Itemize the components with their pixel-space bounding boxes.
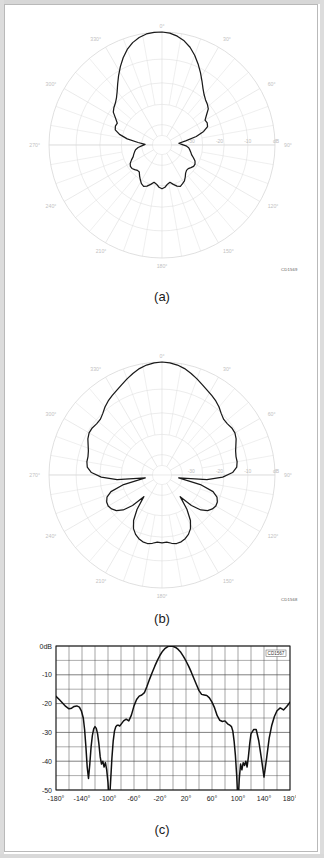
caption-b: (b): [0, 611, 324, 626]
svg-text:60°: 60°: [268, 81, 276, 87]
caption-a: (a): [0, 289, 324, 304]
svg-text:-20: -20: [216, 468, 223, 474]
svg-text:-100°: -100°: [100, 795, 117, 802]
svg-text:90°: 90°: [284, 472, 292, 478]
svg-text:330°: 330°: [90, 36, 101, 42]
svg-text:210°: 210°: [96, 248, 107, 254]
line-panel-c: 0dB-10-20-30-40-50-180°-140°-100°-60°-20…: [28, 636, 296, 822]
line-chart-c: 0dB-10-20-30-40-50-180°-140°-100°-60°-20…: [28, 636, 296, 822]
svg-text:30°: 30°: [223, 366, 231, 372]
figure-page: 0°30°60°90°120°150°180°210°240°270°300°3…: [0, 0, 324, 858]
svg-text:dB: dB: [273, 468, 280, 474]
svg-text:0dB: 0dB: [40, 643, 53, 650]
polar-chart-a: 0°30°60°90°120°150°180°210°240°270°300°3…: [24, 14, 300, 276]
svg-text:150°: 150°: [223, 248, 234, 254]
svg-text:100°: 100°: [231, 795, 246, 802]
svg-text:180°: 180°: [283, 795, 296, 802]
svg-text:-50: -50: [42, 787, 52, 794]
polar-panel-a: 0°30°60°90°120°150°180°210°240°270°300°3…: [24, 14, 300, 276]
svg-text:20°: 20°: [181, 795, 192, 802]
svg-text:150°: 150°: [223, 578, 234, 584]
svg-text:-10: -10: [244, 468, 251, 474]
svg-text:120°: 120°: [268, 203, 279, 209]
svg-text:-140°: -140°: [74, 795, 91, 802]
svg-text:-10: -10: [42, 671, 52, 678]
cd-tag-a: CD1569: [281, 267, 298, 272]
svg-text:90°: 90°: [284, 142, 292, 148]
svg-text:-30: -30: [42, 729, 52, 736]
svg-text:300°: 300°: [46, 411, 57, 417]
svg-text:-20°: -20°: [154, 795, 167, 802]
svg-text:330°: 330°: [90, 366, 101, 372]
svg-text:dB: dB: [273, 138, 280, 144]
cd-tag-b: CD1568: [281, 597, 298, 602]
svg-text:270°: 270°: [29, 472, 40, 478]
svg-text:CD1567: CD1567: [268, 651, 285, 656]
svg-text:180°: 180°: [157, 263, 168, 269]
svg-text:210°: 210°: [96, 578, 107, 584]
svg-text:240°: 240°: [46, 533, 57, 539]
svg-text:30°: 30°: [223, 36, 231, 42]
svg-text:-10: -10: [244, 138, 251, 144]
svg-text:-30: -30: [188, 468, 195, 474]
svg-text:0°: 0°: [160, 23, 165, 29]
svg-text:270°: 270°: [29, 142, 40, 148]
svg-text:60°: 60°: [268, 411, 276, 417]
svg-text:240°: 240°: [46, 203, 57, 209]
svg-text:60°: 60°: [207, 795, 218, 802]
caption-c: (c): [0, 822, 324, 837]
svg-text:300°: 300°: [46, 81, 57, 87]
svg-text:-20: -20: [216, 138, 223, 144]
svg-text:-60°: -60°: [128, 795, 141, 802]
svg-text:120°: 120°: [268, 533, 279, 539]
svg-text:-180°: -180°: [48, 795, 65, 802]
svg-text:140°: 140°: [257, 795, 272, 802]
svg-text:0°: 0°: [160, 353, 165, 359]
svg-text:180°: 180°: [157, 593, 168, 599]
polar-panel-b: 0°30°60°90°120°150°180°210°240°270°300°3…: [24, 344, 300, 606]
scan-edge-bottom: [0, 854, 324, 858]
svg-text:-40: -40: [42, 758, 52, 765]
svg-text:-20: -20: [42, 700, 52, 707]
polar-chart-b: 0°30°60°90°120°150°180°210°240°270°300°3…: [24, 344, 300, 606]
scan-edge-right: [320, 0, 324, 858]
